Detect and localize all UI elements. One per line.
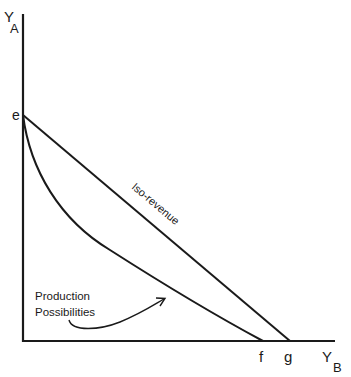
point-e-label: e — [12, 107, 20, 123]
y-axis-label-subscript: A — [10, 21, 19, 36]
point-g-label: g — [284, 348, 292, 365]
iso-revenue-label: Iso-revenue — [130, 180, 182, 227]
point-f-label: f — [259, 348, 264, 365]
x-axis-label: Y — [322, 348, 332, 365]
production-possibilities-diagram: Y A Y B e f g Iso-revenue Production Pos… — [0, 0, 351, 377]
ppf-label-line2: Possibilities — [35, 306, 95, 318]
x-axis-label-subscript: B — [333, 360, 342, 375]
ppf-label-line1: Production — [35, 290, 90, 302]
